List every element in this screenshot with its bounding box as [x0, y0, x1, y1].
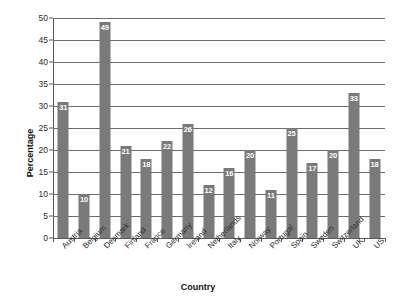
plot-area: 05101520253035404550 3110492118222612162…: [53, 18, 385, 238]
bar: 25: [286, 128, 297, 238]
bar-value-label: 11: [267, 191, 275, 200]
bar-value-label: 25: [287, 129, 295, 138]
bar-value-label: 31: [59, 103, 67, 112]
bar-value-label: 21: [121, 147, 129, 156]
y-tick-label: 45: [39, 35, 48, 45]
bar-slot: 10: [74, 18, 95, 238]
bar-slot: 20: [240, 18, 261, 238]
bar-slot: 18: [136, 18, 157, 238]
bar-value-label: 26: [184, 125, 192, 134]
y-axis-title: Percentage: [25, 129, 35, 178]
bar-value-label: 49: [101, 23, 109, 32]
bar-value-label: 33: [350, 94, 358, 103]
bar-value-label: 17: [308, 164, 316, 173]
y-tick-label: 35: [39, 79, 48, 89]
bar-slot: 25: [281, 18, 302, 238]
y-tick-label: 25: [39, 123, 48, 133]
bar-slot: 16: [219, 18, 240, 238]
y-tick-label: 50: [39, 13, 48, 23]
bar-slot: 26: [178, 18, 199, 238]
bar-slot: 21: [115, 18, 136, 238]
bar-slot: 20: [323, 18, 344, 238]
y-tick-label: 20: [39, 145, 48, 155]
bar-slot: 31: [53, 18, 74, 238]
bar-value-label: 18: [142, 160, 150, 169]
bar-slot: 18: [364, 18, 385, 238]
bar-slot: 17: [302, 18, 323, 238]
bar: 17: [307, 163, 318, 238]
bar-value-label: 22: [163, 142, 171, 151]
x-axis-title: Country: [0, 282, 396, 292]
bar: 49: [99, 22, 110, 238]
bar-slot: 12: [198, 18, 219, 238]
bar-slot: 22: [157, 18, 178, 238]
bar: 18: [369, 159, 380, 238]
y-tick-label: 5: [43, 211, 48, 221]
bar-value-label: 12: [204, 186, 212, 195]
y-tick-label: 15: [39, 167, 48, 177]
bar-slot: 11: [261, 18, 282, 238]
y-tick-label: 30: [39, 101, 48, 111]
bar-value-label: 18: [370, 160, 378, 169]
bar-value-label: 10: [80, 195, 88, 204]
bar-slot: 49: [95, 18, 116, 238]
bar-slot: 33: [344, 18, 365, 238]
bar-value-label: 20: [246, 151, 254, 160]
bar: 20: [245, 150, 256, 238]
bar-chart: Percentage 05101520253035404550 31104921…: [0, 0, 396, 306]
bar: 31: [58, 102, 69, 238]
y-tick-label: 10: [39, 189, 48, 199]
bar: 22: [162, 141, 173, 238]
bar-value-label: 16: [225, 169, 233, 178]
bar-value-label: 20: [329, 151, 337, 160]
x-tick-mark: [53, 238, 54, 242]
y-tick-label: 40: [39, 57, 48, 67]
y-tick-label: 0: [43, 233, 48, 243]
